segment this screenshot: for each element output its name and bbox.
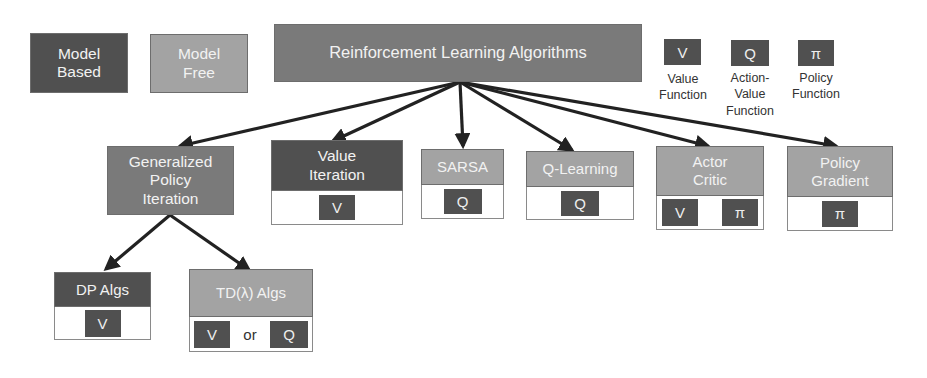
v-symbol-icon: V xyxy=(97,315,107,332)
node-label: Policy xyxy=(150,171,191,189)
legend-action-value-function-chip: Q xyxy=(731,40,769,66)
value-iteration-function-row: V xyxy=(271,191,403,225)
node-actor-critic: Actor Critic xyxy=(656,146,764,196)
node-sarsa: SARSA xyxy=(421,149,504,185)
node-label: Value xyxy=(318,147,357,165)
node-generalized-policy-iteration: Generalized Policy Iteration xyxy=(107,146,234,215)
arrow-to-sarsa xyxy=(460,82,463,146)
legend-policy-function-label: Policy Function xyxy=(784,70,848,103)
node-label: Critic xyxy=(693,171,727,189)
node-label: Policy xyxy=(820,154,860,172)
node-dp-algs: DP Algs xyxy=(54,272,151,307)
legend-policy-function-chip: π xyxy=(798,40,834,66)
q-chip: Q xyxy=(270,321,308,348)
node-label: Actor xyxy=(692,153,727,171)
pi-symbol-icon: π xyxy=(735,204,745,221)
legend-value-function-label: Value Function xyxy=(650,71,716,104)
q-symbol-icon: Q xyxy=(457,193,469,210)
v-symbol-icon: V xyxy=(207,326,217,343)
pi-chip: π xyxy=(822,201,858,227)
v-symbol-icon: V xyxy=(675,204,685,221)
label-line: Function xyxy=(650,87,716,103)
node-policy-gradient: Policy Gradient xyxy=(787,146,893,197)
node-td-lambda-algs: TD(λ) Algs xyxy=(189,269,313,317)
node-q-learning: Q-Learning xyxy=(526,151,634,187)
node-label: SARSA xyxy=(437,158,488,176)
label-line: Value xyxy=(718,86,782,102)
label-line: Function xyxy=(718,103,782,119)
v-chip: V xyxy=(662,199,698,226)
actor-critic-function-row: V π xyxy=(656,196,764,230)
label-line: Action- xyxy=(718,70,782,86)
q-learning-function-row: Q xyxy=(526,187,634,220)
node-label: TD(λ) Algs xyxy=(216,284,286,302)
q-chip: Q xyxy=(561,191,599,216)
label-line: Function xyxy=(784,86,848,102)
legend-model-based: Model Based xyxy=(30,33,128,93)
dp-algs-function-row: V xyxy=(54,307,151,340)
node-label: Gradient xyxy=(811,172,869,190)
or-connector: or xyxy=(243,326,256,343)
node-label: Generalized xyxy=(129,153,213,171)
node-label: Q-Learning xyxy=(542,160,617,178)
legend-model-based-label: Model Based xyxy=(44,45,114,82)
root-title: Reinforcement Learning Algorithms xyxy=(329,43,587,62)
q-symbol-icon: Q xyxy=(574,195,586,212)
q-symbol-icon: Q xyxy=(744,45,756,62)
node-label: Iteration xyxy=(142,190,198,208)
v-chip: V xyxy=(194,321,230,348)
label-line: Policy xyxy=(784,70,848,86)
root-node: Reinforcement Learning Algorithms xyxy=(274,24,642,82)
v-chip: V xyxy=(319,195,355,220)
node-label: DP Algs xyxy=(76,281,129,299)
pi-symbol-icon: π xyxy=(811,45,821,62)
label-line: Value xyxy=(650,71,716,87)
arrow-to-td-algs xyxy=(170,215,249,270)
node-label: Iteration xyxy=(309,166,365,184)
node-value-iteration: Value Iteration xyxy=(271,140,403,191)
arrow-to-dp-algs xyxy=(106,215,170,269)
legend-model-free: Model Free xyxy=(150,34,248,93)
td-lambda-algs-function-row: V or Q xyxy=(189,317,313,352)
q-chip: Q xyxy=(444,189,482,214)
sarsa-function-row: Q xyxy=(421,185,504,219)
v-symbol-icon: V xyxy=(677,44,687,61)
v-symbol-icon: V xyxy=(332,199,342,216)
q-symbol-icon: Q xyxy=(283,326,295,343)
legend-model-free-label: Model Free xyxy=(169,45,229,82)
legend-value-function-chip: V xyxy=(664,39,701,65)
arrow-to-value-iteration xyxy=(333,82,460,141)
pi-symbol-icon: π xyxy=(835,205,845,222)
v-chip: V xyxy=(85,310,121,337)
pi-chip: π xyxy=(722,199,758,226)
policy-gradient-function-row: π xyxy=(787,197,893,231)
legend-action-value-function-label: Action- Value Function xyxy=(718,70,782,119)
